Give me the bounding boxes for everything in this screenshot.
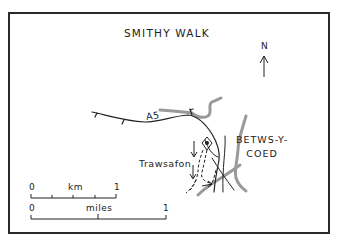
km-scale-unit: km <box>68 182 83 192</box>
km-scale-bar <box>31 194 116 198</box>
town-label-line1: BETWS-Y- <box>236 133 288 147</box>
walk-route <box>186 150 216 193</box>
place-label-trawsafon: Trawsafon <box>139 158 191 169</box>
river <box>160 98 246 195</box>
road-label-a5: A5 <box>145 109 160 122</box>
map-title: SMITHY WALK <box>124 27 210 39</box>
town-label: BETWS-Y- COED <box>236 133 288 161</box>
north-label: N <box>261 41 268 51</box>
km-scale-end: 1 <box>114 182 120 192</box>
km-scale-start: 0 <box>29 182 35 192</box>
town-label-line2: COED <box>236 147 288 161</box>
roads <box>205 136 234 192</box>
road-a5 <box>92 109 219 192</box>
miles-scale-start: 0 <box>29 203 35 213</box>
smithy-marker-icon <box>202 137 212 150</box>
miles-scale-bar <box>31 214 166 219</box>
miles-scale-unit: miles <box>86 203 113 213</box>
north-arrow-icon <box>260 56 268 77</box>
miles-scale-end: 1 <box>163 203 169 213</box>
